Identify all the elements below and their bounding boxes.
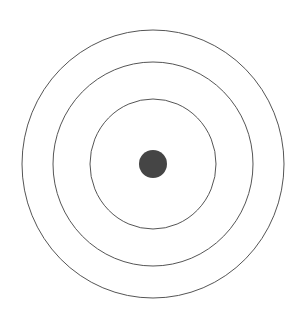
diagram-canvas (0, 0, 302, 320)
center-dot (139, 150, 167, 178)
target-diagram (0, 0, 302, 320)
